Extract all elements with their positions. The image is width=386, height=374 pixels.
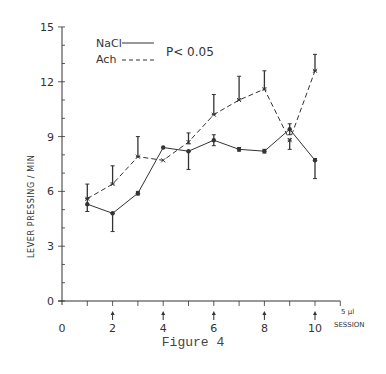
y-tick-label: 6 [47,185,54,198]
p-value-annotation: P< 0.05 [166,45,214,59]
data-point-dot [85,202,89,206]
series-line [87,71,315,199]
series-nacl [85,124,317,232]
data-point-dot [288,127,292,131]
y-tick-label: 15 [40,21,54,34]
series-line [87,129,315,213]
arrow-head-icon [161,311,165,315]
y-tick-label: 9 [47,131,54,144]
legend-ach-label: Ach [96,53,116,66]
y-tick-label: 3 [47,240,54,253]
y-axis-label: LEVER PRESSING / MIN [27,155,36,258]
x-tick-label: 10 [308,322,322,335]
data-point-dot [136,191,140,195]
figure-caption: Figure 4 [0,335,386,350]
arrow-head-icon [262,311,266,315]
legend: NaCl Ach P< 0.05 [96,37,214,66]
axes: 036912150246810 [40,21,340,335]
legend-nacl-label: NaCl [96,37,122,50]
data-point-dot [313,158,317,162]
data-point-dot [237,147,241,151]
data-point-dot [161,145,165,149]
arrow-head-icon [111,311,115,315]
x-tick-label: 4 [160,322,167,335]
arrow-head-icon [313,311,317,315]
y-tick-label: 0 [47,295,54,308]
data-point-dot [186,149,190,153]
x-tick-label: 0 [59,322,66,335]
data-point-dot [212,138,216,142]
data-point-dot [110,211,114,215]
x-axis-label: SESSION [334,321,365,329]
y-tick-label: 12 [40,76,54,89]
series-ach [85,54,317,200]
x-tick-label: 2 [109,322,116,335]
data-point-dot [262,149,266,153]
x-tick-label: 8 [261,322,268,335]
arrow-head-icon [212,311,216,315]
dose-label: 5 µl [341,308,354,316]
data-series [85,54,317,231]
x-tick-label: 6 [210,322,217,335]
line-chart: 036912150246810 NaCl Ach P< 0.05 LEVER P… [0,0,386,374]
